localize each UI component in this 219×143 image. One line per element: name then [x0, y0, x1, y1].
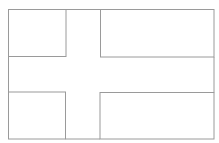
flag-panels: [9, 10, 215, 140]
flag-outline-diagram: [0, 0, 219, 143]
cross-bar-top-bottom-edges: [66, 10, 101, 140]
bottom-left-panel: [9, 92, 66, 139]
top-right-panel: [101, 10, 215, 58]
cross-bar-side-edges: [9, 57, 215, 93]
top-left-panel: [9, 10, 67, 57]
bottom-right-panel: [100, 93, 214, 140]
